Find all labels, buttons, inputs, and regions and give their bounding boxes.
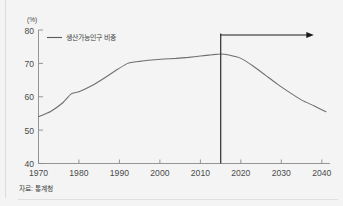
x-tick-label-2000: 2000: [150, 168, 169, 178]
projection-arrow-head: [306, 32, 314, 38]
y-tick-label-80: 80: [24, 26, 34, 36]
x-tick-label-1980: 1980: [69, 168, 88, 178]
chart-legend: 생산가능인구 비중: [47, 33, 116, 42]
line-chart-canvas: (%) 80 70 60 50 40 1: [0, 0, 343, 206]
x-tick-label-2020: 2020: [231, 168, 250, 178]
y-axis-ticks: [39, 30, 44, 164]
legend-label-working-age-share: 생산가능인구 비중: [66, 33, 116, 42]
y-tick-label-60: 60: [24, 92, 34, 102]
y-axis-unit-label: (%): [27, 16, 37, 24]
x-tick-label-1990: 1990: [110, 168, 129, 178]
source-note: 자료: 통계청: [19, 184, 53, 193]
x-axis-ticks: [39, 160, 322, 164]
y-tick-label-50: 50: [24, 126, 34, 136]
chart-figure: (%) 80 70 60 50 40 1: [0, 0, 343, 206]
series-line-working-age-share: [39, 54, 326, 117]
x-tick-label-2030: 2030: [272, 168, 291, 178]
x-tick-label-2010: 2010: [191, 168, 210, 178]
x-tick-label-1970: 1970: [29, 168, 48, 178]
x-tick-label-2040: 2040: [312, 168, 331, 178]
y-tick-label-70: 70: [24, 59, 34, 69]
